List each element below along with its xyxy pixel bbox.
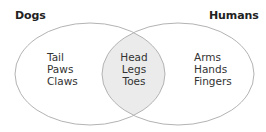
- dogs-item: Paws: [47, 63, 78, 75]
- dogs-item: Tail: [47, 51, 78, 63]
- humans-item: Hands: [194, 63, 232, 75]
- shared-item: Head: [112, 51, 156, 63]
- shared-item: Toes: [112, 75, 156, 87]
- shared-items: Head Legs Toes: [112, 51, 156, 87]
- humans-set-title: Humans: [209, 9, 259, 23]
- humans-item: Fingers: [194, 75, 232, 87]
- dogs-only-items: Tail Paws Claws: [47, 51, 78, 87]
- dogs-item: Claws: [47, 75, 78, 87]
- shared-item: Legs: [112, 63, 156, 75]
- dogs-set-title: Dogs: [15, 9, 46, 23]
- humans-only-items: Arms Hands Fingers: [194, 51, 232, 87]
- humans-item: Arms: [194, 51, 232, 63]
